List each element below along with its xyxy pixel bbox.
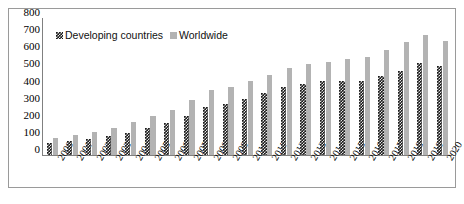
bar-worldwide: [404, 42, 409, 155]
legend-entry-developing-countries: Developing countries: [56, 30, 163, 41]
bar-worldwide: [423, 35, 428, 155]
y-axis-tick-label: 800: [10, 7, 40, 18]
bar-group: [296, 18, 315, 155]
y-axis-tick-label: 500: [10, 58, 40, 69]
bar-developing-countries: [398, 71, 403, 155]
bar-worldwide: [306, 64, 311, 155]
x-axis-tick-label: 2003: [114, 157, 122, 162]
bar-developing-countries: [261, 93, 266, 155]
x-axis-tick-label: 2015: [348, 157, 356, 162]
bar-developing-countries: [203, 107, 208, 155]
x-axis-tick-label: 2018: [406, 157, 414, 162]
bar-worldwide: [150, 116, 155, 155]
bar-worldwide: [189, 100, 194, 155]
x-axis-tick-label: 2010: [251, 157, 259, 162]
y-axis-tick-label: 100: [10, 127, 40, 138]
bar-developing-countries: [47, 143, 52, 155]
x-axis-tick-label: 2019: [426, 157, 434, 162]
chart-legend: Developing countries Worldwide: [56, 28, 228, 42]
bar-worldwide: [73, 135, 78, 155]
x-axis-tick-label: 2008: [212, 157, 220, 162]
bar-developing-countries: [67, 141, 72, 155]
x-axis-tick-label: 2009: [231, 157, 239, 162]
bar-group: [433, 18, 452, 155]
x-axis-tick-label: 2017: [387, 157, 395, 162]
x-axis-tick-label: 2020: [445, 157, 453, 162]
bar-worldwide: [384, 50, 389, 155]
bar-group: [316, 18, 335, 155]
y-axis: 8007006005004003002001000: [10, 12, 40, 160]
x-axis-tick-label: 2004: [134, 157, 142, 162]
bar-worldwide: [131, 122, 136, 155]
bar-developing-countries: [339, 81, 344, 155]
bar-developing-countries: [242, 99, 247, 156]
y-axis-tick-label: 700: [10, 24, 40, 35]
bar-group: [413, 18, 432, 155]
x-axis-tick-label: 2002: [95, 157, 103, 162]
x-axis-tick-label: 2013: [309, 157, 317, 162]
bar-group: [257, 18, 276, 155]
bar-developing-countries: [281, 87, 286, 155]
bar-developing-countries: [86, 139, 91, 155]
x-axis-tick-label: 2005: [153, 157, 161, 162]
bar-group: [277, 18, 296, 155]
bar-worldwide: [111, 128, 116, 155]
bar-developing-countries: [359, 81, 364, 155]
bar-worldwide: [287, 68, 292, 155]
legend-label-worldwide: Worldwide: [179, 30, 228, 41]
x-axis-tick-label: 2011: [270, 157, 278, 162]
x-axis-tick-label: 2016: [367, 157, 375, 162]
bar-developing-countries: [378, 76, 383, 155]
bar-developing-countries: [320, 81, 325, 155]
bar-worldwide: [209, 90, 214, 155]
legend-label-developing-countries: Developing countries: [65, 30, 163, 41]
x-axis-tick-label: 2006: [173, 157, 181, 162]
bar-developing-countries: [300, 84, 305, 155]
bar-developing-countries: [106, 136, 111, 155]
bar-worldwide: [53, 138, 58, 155]
bar-worldwide: [345, 59, 350, 155]
y-axis-tick-label: 300: [10, 93, 40, 104]
bar-group: [394, 18, 413, 155]
bar-group: [374, 18, 393, 155]
bar-developing-countries: [417, 63, 422, 155]
bar-worldwide: [228, 87, 233, 156]
bar-developing-countries: [164, 123, 169, 155]
x-axis: 2000200120022003200420052006200720082009…: [43, 157, 452, 201]
x-axis-tick-label: 2012: [289, 157, 297, 162]
legend-entry-worldwide: Worldwide: [170, 30, 228, 41]
legend-swatch-icon-developing-countries: [56, 32, 63, 39]
bar-group: [335, 18, 354, 155]
bar-group: [355, 18, 374, 155]
bar-worldwide: [92, 132, 97, 155]
x-axis-tick-label: 2007: [192, 157, 200, 162]
x-axis-tick-label: 2000: [56, 157, 64, 162]
bar-group: [238, 18, 257, 155]
bar-developing-countries: [125, 133, 130, 155]
bar-developing-countries: [223, 104, 228, 155]
bar-chart: 8007006005004003002001000 Developing cou…: [0, 0, 464, 204]
bar-worldwide: [267, 75, 272, 155]
y-axis-tick-label: 0: [10, 144, 40, 155]
legend-swatch-icon-worldwide: [170, 32, 177, 39]
bar-worldwide: [170, 110, 175, 155]
y-axis-tick-label: 200: [10, 110, 40, 121]
bar-developing-countries: [437, 66, 442, 155]
bar-worldwide: [365, 57, 370, 155]
bar-worldwide: [443, 41, 448, 155]
bar-worldwide: [326, 62, 331, 155]
bar-developing-countries: [184, 116, 189, 155]
x-axis-tick-label: 2014: [328, 157, 336, 162]
x-axis-tick-label: 2001: [75, 157, 83, 162]
y-axis-tick-label: 400: [10, 76, 40, 87]
y-axis-tick-label: 600: [10, 41, 40, 52]
bar-developing-countries: [145, 128, 150, 155]
bar-worldwide: [248, 81, 253, 155]
